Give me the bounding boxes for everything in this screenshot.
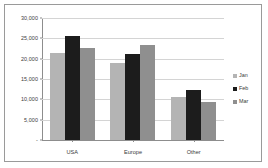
legend-label-jan: Jan: [239, 73, 248, 78]
plot-area: -5,00010,00015,00020,00025,00030,000 USA…: [42, 18, 224, 140]
y-tick-label-15000: 15,000: [21, 76, 38, 82]
y-tick-label-5000: 5,000: [24, 117, 38, 123]
legend-item-feb[interactable]: Feb: [233, 86, 263, 92]
bar-europe-feb[interactable]: [125, 54, 140, 140]
bar-other-mar[interactable]: [201, 102, 216, 140]
x-tick-mark-europe: [133, 140, 134, 142]
bar-group-other: Other: [163, 18, 224, 140]
legend-swatch-icon-mar: [233, 100, 237, 104]
bar-usa-jan[interactable]: [50, 53, 65, 140]
y-tick-label-30000: 30,000: [21, 15, 38, 21]
legend-label-feb: Feb: [239, 86, 248, 91]
chart-legend[interactable]: JanFebMar: [233, 73, 263, 112]
bar-europe-jan[interactable]: [110, 63, 125, 140]
bar-group-usa: USA: [42, 18, 103, 140]
bar-europe-mar[interactable]: [140, 45, 155, 140]
legend-label-mar: Mar: [239, 99, 248, 104]
x-tick-label-usa: USA: [67, 149, 79, 155]
legend-item-jan[interactable]: Jan: [233, 73, 263, 79]
chart-frame[interactable]: -5,00010,00015,00020,00025,00030,000 USA…: [4, 4, 262, 162]
legend-item-mar[interactable]: Mar: [233, 99, 263, 105]
y-tick-label-0: -: [36, 137, 38, 143]
x-tick-mark-usa: [72, 140, 73, 142]
bar-other-jan[interactable]: [171, 97, 186, 140]
x-tick-mark-other: [194, 140, 195, 142]
legend-swatch-icon-feb: [233, 87, 237, 91]
bar-usa-feb[interactable]: [65, 36, 80, 141]
bar-other-feb[interactable]: [186, 90, 201, 140]
legend-swatch-icon-jan: [233, 74, 237, 78]
y-tick-label-25000: 25,000: [21, 35, 38, 41]
y-tick-label-10000: 10,000: [21, 96, 38, 102]
bar-usa-mar[interactable]: [80, 48, 95, 140]
x-tick-label-other: Other: [187, 149, 201, 155]
x-tick-label-europe: Europe: [124, 149, 142, 155]
bar-group-europe: Europe: [103, 18, 164, 140]
y-tick-label-20000: 20,000: [21, 56, 38, 62]
